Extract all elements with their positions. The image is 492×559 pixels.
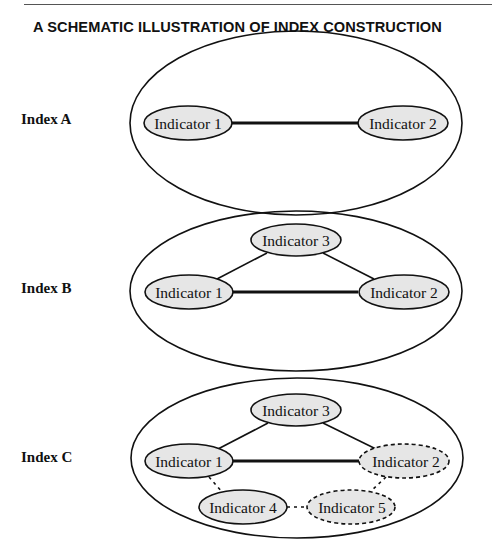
- svg-text:Indicator 3: Indicator 3: [262, 232, 330, 249]
- edge-c-1-4: [209, 477, 222, 492]
- node-c-indicator-4: Indicator 4: [199, 490, 287, 524]
- node-a-indicator-1: Indicator 1: [144, 106, 232, 140]
- svg-text:Indicator 2: Indicator 2: [369, 115, 437, 132]
- node-c-indicator-2: Indicator 2: [359, 444, 449, 478]
- svg-text:Indicator 1: Indicator 1: [155, 453, 223, 470]
- svg-text:Indicator 2: Indicator 2: [372, 453, 440, 470]
- edge-b-3-2: [323, 253, 374, 279]
- edge-c-5-2: [371, 477, 386, 491]
- edge-c-3-2: [323, 423, 376, 449]
- index-b-group: Indicator 3 Indicator 1 Indicator 2: [130, 211, 462, 371]
- node-b-indicator-2: Indicator 2: [359, 275, 449, 309]
- index-c-group: Indicator 3 Indicator 1 Indicator 2 Indi…: [131, 378, 463, 538]
- edge-b-1-3: [217, 253, 267, 279]
- index-b-label: Index B: [21, 280, 71, 297]
- node-c-indicator-3: Indicator 3: [251, 394, 341, 426]
- svg-text:Indicator 2: Indicator 2: [370, 284, 438, 301]
- index-diagram: Indicator 1 Indicator 2 Indicator 3 Indi…: [0, 0, 492, 559]
- node-b-indicator-3: Indicator 3: [251, 224, 341, 256]
- svg-text:Indicator 3: Indicator 3: [262, 402, 330, 419]
- svg-text:Indicator 1: Indicator 1: [155, 284, 223, 301]
- svg-text:Indicator 4: Indicator 4: [209, 499, 277, 516]
- svg-text:Indicator 5: Indicator 5: [318, 499, 386, 516]
- node-c-indicator-1: Indicator 1: [145, 444, 233, 478]
- node-b-indicator-1: Indicator 1: [145, 275, 233, 309]
- node-c-indicator-5: Indicator 5: [307, 490, 395, 524]
- index-a-label-text: Index A: [21, 111, 71, 128]
- index-c-label: Index C: [21, 449, 72, 466]
- node-a-indicator-2: Indicator 2: [358, 106, 448, 140]
- svg-text:Indicator 1: Indicator 1: [154, 115, 222, 132]
- edge-c-1-3: [218, 423, 268, 449]
- index-a-group: Indicator 1 Indicator 2: [130, 31, 462, 215]
